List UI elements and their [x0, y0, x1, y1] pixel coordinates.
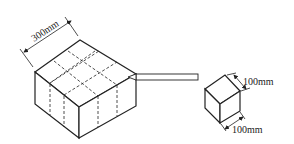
- diagram-canvas: 300mm 100mm 100mm: [0, 0, 294, 144]
- dimension-label-top-100mm: 100mm: [243, 76, 274, 87]
- dimension-label-bottom-100mm: 100mm: [232, 124, 263, 135]
- small-cube: [205, 75, 240, 123]
- extraction-bar: [128, 74, 198, 80]
